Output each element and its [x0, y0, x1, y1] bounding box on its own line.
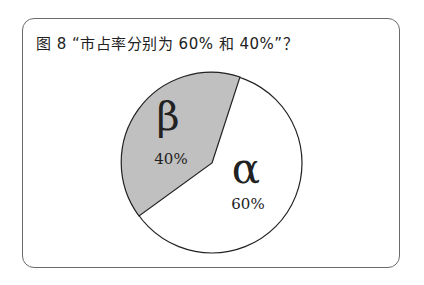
alpha-percent-label: 60% — [231, 195, 264, 213]
alpha-symbol-label: α — [232, 144, 260, 193]
pie-chart: β 40% α 60% — [0, 0, 424, 285]
beta-symbol-label: β — [156, 93, 179, 139]
beta-percent-label: 40% — [154, 150, 187, 168]
